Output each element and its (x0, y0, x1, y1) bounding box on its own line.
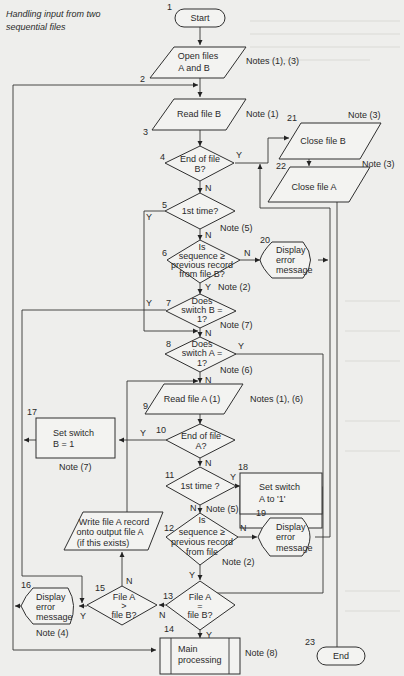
node-label-line3: (if this exists) (77, 538, 130, 548)
decision-end-of-file-a[interactable]: End of file A? 10 Y N (140, 424, 235, 468)
node-label-line1: Is (198, 515, 206, 525)
decision-a-greater-b[interactable]: File A > file B? 15 Y N (80, 576, 157, 625)
node-label-line1: End of file (181, 431, 221, 441)
node-number: 15 (95, 583, 105, 593)
node-note: Note (2) (222, 557, 255, 567)
node-note: Note (2) (218, 282, 251, 292)
node-end[interactable]: End 23 (305, 637, 365, 665)
node-note: Note (5) (220, 223, 253, 233)
diagram-title-line2: sequential files (6, 22, 66, 32)
node-label-line2: B? (194, 164, 205, 174)
node-number: 16 (21, 580, 31, 590)
yes-label: Y (230, 472, 236, 482)
node-number: 23 (305, 637, 315, 647)
no-label: N (126, 576, 133, 586)
node-number: 3 (143, 127, 148, 137)
decision-first-time-b[interactable]: 1st time? 5 Y N Note (5) (146, 193, 253, 240)
decision-sequence-b[interactable]: Is sequence ≥ previous record from file … (162, 240, 251, 292)
node-number: 21 (287, 113, 297, 123)
node-label-line2: error (276, 255, 295, 265)
node-label-line3: message (276, 543, 313, 553)
node-read-file-a[interactable]: Read file A (1) Notes (1), (6) 9 (143, 384, 303, 414)
decision-end-of-file-b[interactable]: End of file B? 4 Y N (160, 146, 242, 193)
node-number: 7 (166, 298, 171, 308)
no-label: N (244, 248, 251, 258)
node-number: 9 (143, 401, 148, 411)
node-label-line4: from file (186, 547, 218, 557)
node-read-file-b[interactable]: Read file B Note (1) 3 (143, 99, 279, 137)
node-open-files[interactable]: Open files A and B Notes (1), (3) 2 (140, 47, 299, 84)
node-note: Note (8) (245, 648, 278, 658)
node-label-line2: error (36, 602, 55, 612)
node-note: Note (5) (206, 504, 239, 514)
node-number: 13 (163, 591, 173, 601)
node-label-line2: A and B (178, 63, 210, 73)
node-number: 2 (140, 74, 145, 84)
node-number: 5 (162, 200, 167, 210)
node-label-line3: message (36, 612, 73, 622)
node-number: 18 (238, 462, 248, 472)
yes-label: Y (146, 298, 152, 308)
node-note: Notes (1), (6) (250, 394, 303, 404)
node-label-line3: file B? (187, 610, 212, 620)
diagram-title-line1: Handling input from two (6, 9, 101, 19)
node-note: Note (4) (36, 628, 69, 638)
node-label-line3: 1? (197, 358, 207, 368)
predefined-main-processing[interactable]: Main processing 14 Note (8) (160, 624, 278, 674)
node-label-line4: from file B? (179, 269, 225, 279)
no-label: N (190, 503, 197, 513)
node-label-line3: 1? (197, 314, 207, 324)
no-label: N (205, 328, 212, 338)
display-error-20[interactable]: Display error message 20 (260, 235, 313, 278)
node-label-line2: B = 1 (53, 439, 74, 449)
node-label-line2: error (276, 532, 295, 542)
node-number: 20 (260, 235, 270, 245)
node-label-line3: file B? (111, 610, 136, 620)
node-number: 1 (167, 2, 172, 12)
node-label-line2: sequence ≥ (179, 527, 226, 537)
decision-first-time-a[interactable]: 1st time ? 11 Y N Note (5) (165, 467, 239, 514)
node-number: 10 (156, 425, 166, 435)
yes-label: Y (189, 570, 195, 580)
node-number: 22 (276, 161, 286, 171)
node-label-line1: Display (276, 522, 306, 532)
yes-label: Y (80, 611, 86, 621)
yes-label: Y (140, 428, 146, 438)
flowchart-canvas: Handling input from two sequential files (0, 0, 404, 676)
node-start[interactable]: 1 Start (167, 2, 225, 27)
yes-label: Y (236, 150, 242, 160)
yes-label: Y (238, 341, 244, 351)
flowchart-svg: Handling input from two sequential files (0, 0, 404, 676)
node-label-line1: Display (36, 592, 66, 602)
node-number: 17 (27, 407, 37, 417)
node-label-line2: onto output file A (76, 527, 143, 537)
node-label-line1: Open files (178, 51, 219, 61)
node-label: Close file A (291, 182, 336, 192)
node-label-line1: Set switch (53, 428, 94, 438)
node-number: 11 (165, 470, 174, 480)
no-label: N (205, 458, 212, 468)
node-label-line2: processing (178, 655, 222, 665)
no-label: N (205, 183, 212, 193)
node-number: 6 (162, 248, 167, 258)
process-set-switch-b[interactable]: Set switch B = 1 17 Note (7) (27, 407, 115, 472)
node-write-file-a[interactable]: Write file A record onto output file A (… (64, 512, 163, 550)
node-label-line2: A? (195, 441, 206, 451)
node-close-file-b[interactable]: Close file B 21 Note (3) (279, 110, 381, 159)
node-label: 1st time? (182, 206, 219, 216)
node-note: Notes (1), (3) (246, 56, 299, 66)
decision-switch-a[interactable]: Does switch A = 1? 8 Y N Note (6) (165, 337, 253, 385)
node-number: 19 (256, 508, 266, 518)
node-label: Read file A (1) (164, 394, 221, 404)
node-close-file-a[interactable]: Close file A 22 Note (3) (268, 159, 395, 202)
node-number: 12 (164, 523, 174, 533)
node-number: 8 (166, 339, 171, 349)
node-label-line2: switch A = (182, 348, 222, 358)
node-label-line3: previous record (171, 537, 233, 547)
node-label-line1: End of file (180, 154, 220, 164)
node-label-line1: Set switch (259, 482, 300, 492)
display-error-16[interactable]: Display error message 16 Note (4) (21, 580, 74, 638)
node-label-line2: A to '1' (259, 494, 286, 504)
node-note: Note (6) (220, 365, 253, 375)
decision-sequence-a[interactable]: Is sequence ≥ previous record from file … (164, 513, 255, 580)
